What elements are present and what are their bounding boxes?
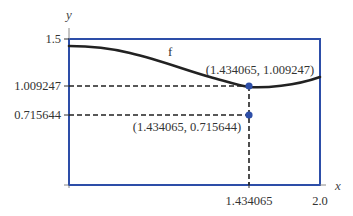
point-minimum-label: (1.434065, 1.009247) [206, 63, 314, 77]
x-tick-label-1.434065: 1.434065 [226, 194, 273, 208]
point-lower [245, 111, 252, 118]
y-tick-label-0.715644: 0.715644 [14, 108, 62, 122]
y-axis-label: y [64, 7, 72, 22]
y-tick-label-1.009247: 1.009247 [14, 79, 61, 93]
curve-label-f: f [168, 44, 173, 59]
x-tick-label-2.0: 2.0 [312, 194, 328, 208]
point-minimum [245, 82, 252, 89]
chart: y x 1.5 1.009247 0.715644 1.434065 2.0 f… [0, 0, 353, 216]
point-lower-label: (1.434065, 0.715644) [133, 120, 241, 134]
y-tick-label-1.5: 1.5 [45, 32, 61, 46]
plot-frame [69, 39, 320, 185]
x-axis-label: x [334, 178, 341, 193]
